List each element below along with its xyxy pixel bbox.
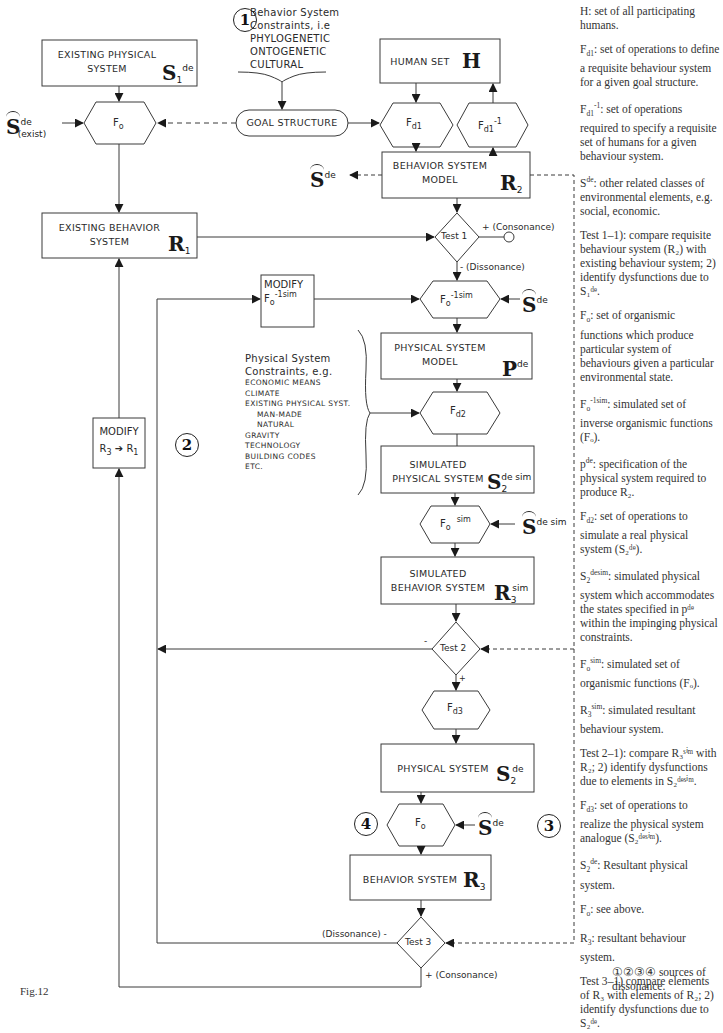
test3-dissonance-label: (Dissonance) - [322,929,387,939]
source-of-dissonance-2: 2 [175,433,199,457]
test2-plus: + [459,674,466,683]
physical-constraints-brace [358,330,370,495]
modify-r3-r1-label: MODIFY R3 ➔ R1 [97,426,141,457]
consonance-terminal [504,232,514,242]
r3-symbol: R3 [463,870,485,897]
glossary-entry: Fd3: set of operations to realize the ph… [580,798,720,845]
glossary-entry: R3: resultant behaviour system. [580,931,720,964]
s1-de-symbol: S1de [162,58,193,90]
goal-structure-label: GOAL STRUCTURE [236,116,348,130]
glossary-entry: Fd1-1: set of operations required to spe… [580,99,720,163]
circled-numbers-icon: ①②③④ [612,966,656,978]
glossary-entry: H: set of all participating humans. [580,4,720,32]
glossary-entry: Fd1: set of operations to define a requi… [580,42,720,89]
physical-system-constraints: Physical System Constraints, e.g. ECONOM… [245,352,350,473]
physical-system-label: PHYSICAL SYSTEM [393,762,493,776]
figure-label: Fig.12 [20,985,48,997]
s-de-sim-symbol: Sde sim [522,512,567,537]
glossary-entry: Test 1–1): compare requisite behaviour s… [580,228,720,298]
arrow-right-icon: ➔ [112,443,127,454]
test3-label: Test 3 [405,937,431,947]
fo-inverse-sim-label: Fo-1sim [440,291,473,308]
glossary-entry: S2de: Resultant physical system. [580,855,720,891]
human-set-label: HUMAN SET [385,55,455,69]
behavior-system-r3-label: BEHAVIOR SYSTEM [360,873,460,887]
s2-de-symbol: S2de [496,759,523,791]
behavior-system-model-label: BEHAVIOR SYSTEM MODEL [390,159,490,187]
s-exist-symbol: Sde(exist) [6,112,46,144]
physical-system-model-label: PHYSICAL SYSTEM MODEL [390,341,490,369]
glossary-entry: Fo-1sim: simulated set of inverse organi… [580,394,720,444]
fd1-inverse-label: Fd1-1 [478,117,502,134]
test1-dissonance-label: - (Dissonance) [460,262,525,272]
s-de-left-symbol: Sde [310,165,336,190]
glossary: H: set of all participating humans. Fd1:… [580,4,720,1033]
glossary-entry: Test 2–1): compare R₃ˢⁱᵐ with R₂; 2) ide… [580,746,720,788]
s-de-right-2-symbol: Sde [478,813,504,838]
s2-de-sim-symbol: S2de sim [487,467,531,499]
glossary-entry: Fd2: set of operations to simulate a rea… [580,509,720,556]
r1-symbol: R1 [168,234,190,261]
test1-consonance-label: + (Consonance) [482,222,555,232]
source-of-dissonance-4: 4 [354,812,378,836]
simulated-behavior-system-label: SIMULATED BEHAVIOR SYSTEM [383,567,493,595]
test2-label: Test 2 [440,643,466,653]
dissonance-legend: ①②③④ sources of dissonance. [612,965,722,993]
test3-consonance-label: + (Consonance) [425,970,498,980]
glossary-entry: pde: specification of the physical syste… [580,454,720,499]
fo-sim-label: Fosim [440,515,471,532]
existing-behavior-system-label: EXISTING BEHAVIOR SYSTEM [52,221,167,249]
behavior-system-constraints: Behavior System Constraints, i.e PHYLOGE… [250,6,339,71]
fd2-label: Fd2 [450,405,466,419]
source-of-dissonance-3: 3 [537,814,561,838]
glossary-entry: Fosim: simulated set of organismic funct… [580,654,720,690]
r2-symbol: R2 [500,173,522,200]
p-de-symbol: Pde [502,354,528,379]
glossary-entry: R3sim: simulated resultant behaviour sys… [580,700,720,736]
behavior-constraints-brace [238,72,326,82]
fo-bottom-label: Fo [415,817,426,831]
modify-fo-inverse-label: MODIFY Fo-1sim [264,279,303,307]
fd1-label: Fd1 [406,117,422,131]
existing-physical-system-label: EXISTING PHYSICAL SYSTEM [52,48,162,76]
glossary-entry: S2desim: simulated physical system which… [580,566,720,644]
h-symbol: H [462,51,481,71]
glossary-entry: Sde: other related classes of environmen… [580,173,720,218]
fo-top-label: Fo [113,117,124,131]
s-de-right-1-symbol: Sde [522,290,548,315]
glossary-entry: Fo: see above. [580,902,720,921]
test1-label: Test 1 [441,231,467,241]
glossary-entry: Fo: set of organismic functions which pr… [580,308,720,383]
test2-minus: - [424,636,427,646]
r3-sim-symbol: R3sim [494,578,528,610]
simulated-physical-system-label: SIMULATED PHYSICAL SYSTEM [383,458,493,486]
fd3-label: Fd3 [447,702,463,716]
